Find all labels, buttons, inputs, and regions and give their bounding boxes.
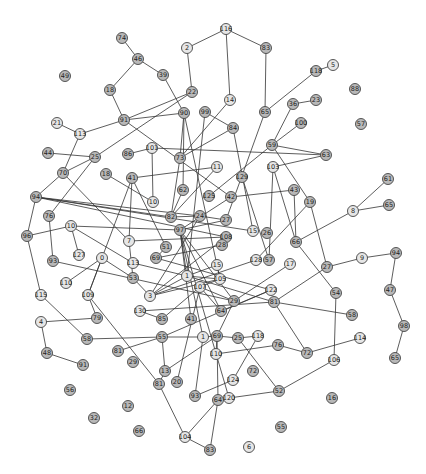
graph-node[interactable]: 85 — [157, 314, 168, 325]
graph-node[interactable]: 113 — [74, 129, 86, 140]
graph-node[interactable]: 72 — [248, 366, 259, 377]
graph-node[interactable]: 107 — [194, 282, 206, 293]
graph-node[interactable]: 129 — [236, 172, 248, 183]
graph-node[interactable]: 109 — [82, 290, 94, 301]
graph-node[interactable]: 90 — [179, 108, 190, 119]
graph-node[interactable]: 96 — [22, 231, 33, 242]
graph-node[interactable]: 59 — [267, 140, 278, 151]
graph-node[interactable]: 130 — [134, 306, 146, 317]
graph-node[interactable]: 66 — [291, 237, 302, 248]
graph-node[interactable]: 11 — [212, 162, 223, 173]
graph-node[interactable]: 46 — [133, 54, 144, 65]
graph-node[interactable]: 103 — [267, 162, 279, 173]
graph-node[interactable]: 25 — [233, 333, 244, 344]
graph-node[interactable]: 29 — [128, 357, 139, 368]
graph-node[interactable]: 44 — [43, 148, 54, 159]
graph-node[interactable]: 81 — [154, 379, 165, 390]
graph-node[interactable]: 104 — [179, 432, 191, 443]
graph-node[interactable]: 114 — [354, 333, 366, 344]
graph-node[interactable]: 97 — [175, 225, 186, 236]
graph-node[interactable]: 13 — [160, 366, 171, 377]
graph-node[interactable]: 8 — [348, 206, 359, 217]
graph-node[interactable]: 43 — [289, 185, 300, 196]
graph-node[interactable]: 27 — [221, 215, 232, 226]
graph-node[interactable]: 16 — [327, 393, 338, 404]
graph-node[interactable]: 57 — [356, 119, 367, 130]
graph-node[interactable]: 55 — [157, 332, 168, 343]
graph-node[interactable]: 4 — [36, 317, 47, 328]
graph-node[interactable]: 69 — [212, 331, 223, 342]
graph-node[interactable]: 76 — [273, 340, 284, 351]
graph-node[interactable]: 17 — [285, 259, 296, 270]
graph-node[interactable]: 3 — [145, 291, 156, 302]
graph-node[interactable]: 122 — [265, 285, 277, 296]
graph-node[interactable]: 81 — [113, 346, 124, 357]
graph-node[interactable]: 25 — [90, 152, 101, 163]
graph-node[interactable]: 21 — [52, 118, 63, 129]
graph-node[interactable]: 91 — [119, 115, 130, 126]
graph-node[interactable]: 106 — [328, 355, 340, 366]
graph-node[interactable]: 62 — [178, 185, 189, 196]
graph-node[interactable]: 94 — [31, 192, 42, 203]
graph-node[interactable]: 100 — [295, 118, 307, 129]
graph-node[interactable]: 10 — [148, 197, 159, 208]
graph-node[interactable]: 124 — [227, 375, 239, 386]
graph-node[interactable]: 118 — [310, 66, 322, 77]
graph-node[interactable]: 115 — [35, 290, 47, 301]
graph-node[interactable]: 20 — [172, 377, 183, 388]
graph-node[interactable]: 23 — [311, 95, 322, 106]
graph-node[interactable]: 72 — [302, 348, 313, 359]
graph-node[interactable]: 18 — [101, 169, 112, 180]
graph-node[interactable]: 42 — [226, 192, 237, 203]
graph-node[interactable]: 82 — [166, 212, 177, 223]
graph-node[interactable]: 118 — [252, 331, 264, 342]
graph-node[interactable]: 49 — [60, 71, 71, 82]
graph-node[interactable]: 110 — [210, 349, 222, 360]
graph-node[interactable]: 10 — [66, 221, 77, 232]
graph-node[interactable]: 93 — [190, 391, 201, 402]
graph-node[interactable]: 98 — [399, 321, 410, 332]
graph-node[interactable]: 93 — [48, 256, 59, 267]
graph-node[interactable]: 5 — [328, 60, 339, 71]
graph-node[interactable]: 2 — [182, 43, 193, 54]
graph-node[interactable]: 41 — [186, 314, 197, 325]
graph-node[interactable]: 14 — [225, 95, 236, 106]
graph-node[interactable]: 51 — [161, 242, 172, 253]
graph-node[interactable]: 12 — [123, 401, 134, 412]
graph-node[interactable]: 83 — [205, 445, 216, 456]
graph-node[interactable]: 88 — [350, 84, 361, 95]
graph-node[interactable]: 105 — [214, 274, 226, 285]
graph-node[interactable]: 54 — [331, 288, 342, 299]
graph-node[interactable]: 84 — [228, 123, 239, 134]
graph-node[interactable]: 66 — [134, 426, 145, 437]
graph-node[interactable]: 101 — [146, 143, 158, 154]
graph-node[interactable]: 70 — [58, 168, 69, 179]
graph-node[interactable]: 28 — [217, 240, 228, 251]
graph-node[interactable]: 127 — [73, 250, 85, 261]
graph-node[interactable]: 83 — [261, 43, 272, 54]
graph-node[interactable]: 65 — [384, 200, 395, 211]
graph-node[interactable]: 56 — [65, 385, 76, 396]
graph-node[interactable]: 74 — [117, 33, 128, 44]
graph-node[interactable]: 47 — [385, 285, 396, 296]
graph-node[interactable]: 61 — [383, 174, 394, 185]
graph-node[interactable]: 1 — [182, 271, 193, 282]
graph-node[interactable]: 99 — [200, 107, 211, 118]
graph-node[interactable]: 48 — [42, 348, 53, 359]
graph-node[interactable]: 53 — [128, 273, 139, 284]
graph-node[interactable]: 6 — [244, 442, 255, 453]
graph-node[interactable]: 64 — [216, 306, 227, 317]
graph-node[interactable]: 52 — [274, 386, 285, 397]
graph-node[interactable]: 7 — [124, 236, 135, 247]
graph-node[interactable]: 18 — [105, 85, 116, 96]
graph-node[interactable]: 26 — [262, 228, 273, 239]
graph-node[interactable]: 27 — [322, 262, 333, 273]
graph-node[interactable]: 113 — [127, 258, 139, 269]
graph-node[interactable]: 22 — [187, 87, 198, 98]
graph-node[interactable]: 86 — [123, 149, 134, 160]
graph-node[interactable]: 128 — [250, 255, 262, 266]
graph-node[interactable]: 110 — [60, 278, 72, 289]
graph-node[interactable]: 125 — [203, 191, 215, 202]
graph-node[interactable]: 41 — [127, 173, 138, 184]
graph-node[interactable]: 73 — [175, 153, 186, 164]
